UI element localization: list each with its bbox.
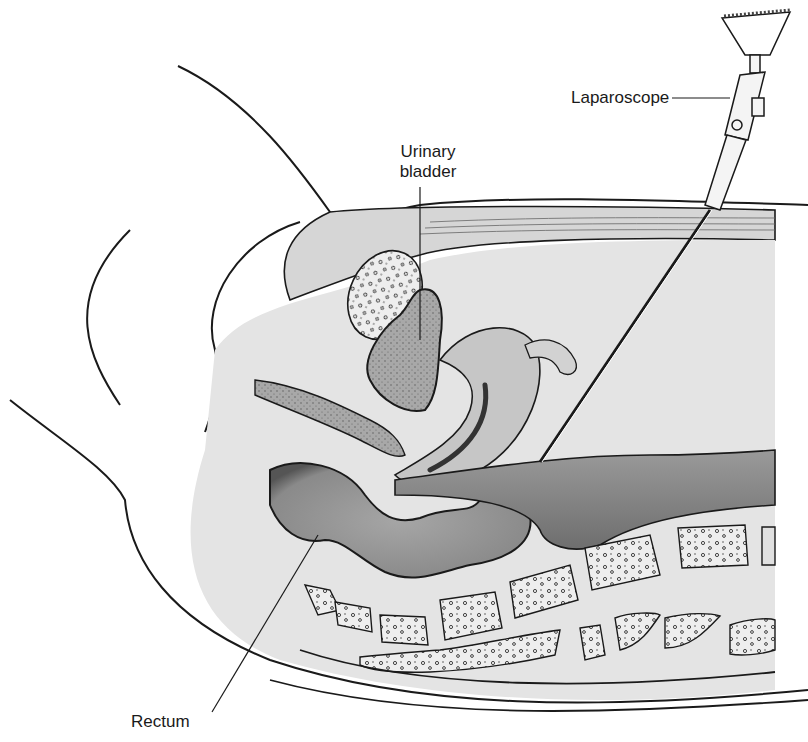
label-laparoscope: Laparoscope	[571, 88, 669, 108]
label-rectum: Rectum	[131, 712, 190, 732]
pelvis-illustration	[0, 0, 808, 742]
label-urinary-bladder: Urinary bladder	[388, 142, 468, 182]
label-urinary-bladder-line1: Urinary	[388, 142, 468, 162]
anatomical-diagram: Laparoscope Urinary bladder Rectum	[0, 0, 808, 742]
label-urinary-bladder-line2: bladder	[388, 162, 468, 182]
